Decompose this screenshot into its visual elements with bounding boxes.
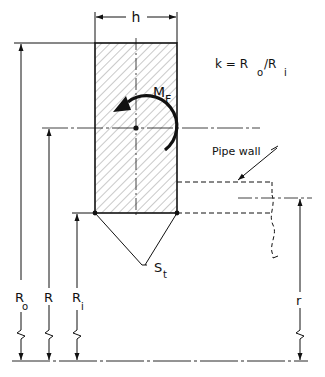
stress-subscript: t: [163, 269, 167, 280]
inner-radius-label: R: [72, 290, 81, 305]
pipe-wall-label: Pipe wall: [212, 145, 261, 158]
svg-text:i: i: [284, 67, 287, 78]
k-formula: k = R o /R i: [215, 57, 287, 78]
inner-radius-subscript: i: [81, 301, 84, 312]
svg-text:o: o: [257, 67, 263, 78]
inner-radius-dimension: [73, 214, 81, 360]
mean-radius-dimension: [45, 129, 53, 360]
mean-radius-label: R: [44, 290, 53, 305]
pipe-radius-dimension: [296, 199, 304, 360]
moment-subscript: F: [165, 93, 171, 106]
centroid-point: [133, 125, 138, 130]
svg-text:/R: /R: [264, 57, 276, 71]
stress-label: S: [154, 260, 162, 275]
pipe-radius-label: r: [296, 293, 302, 308]
outer-radius-subscript: o: [22, 301, 28, 312]
svg-text:k = R: k = R: [215, 57, 248, 71]
moment-label: M: [153, 84, 165, 100]
flange-diagram: h M F k = R o /R i Pipe wall S t: [0, 0, 325, 377]
outer-radius-dimension: [17, 44, 25, 360]
stress-leaders: [95, 213, 177, 265]
pipe-wall: [177, 182, 278, 258]
width-label: h: [132, 9, 141, 25]
